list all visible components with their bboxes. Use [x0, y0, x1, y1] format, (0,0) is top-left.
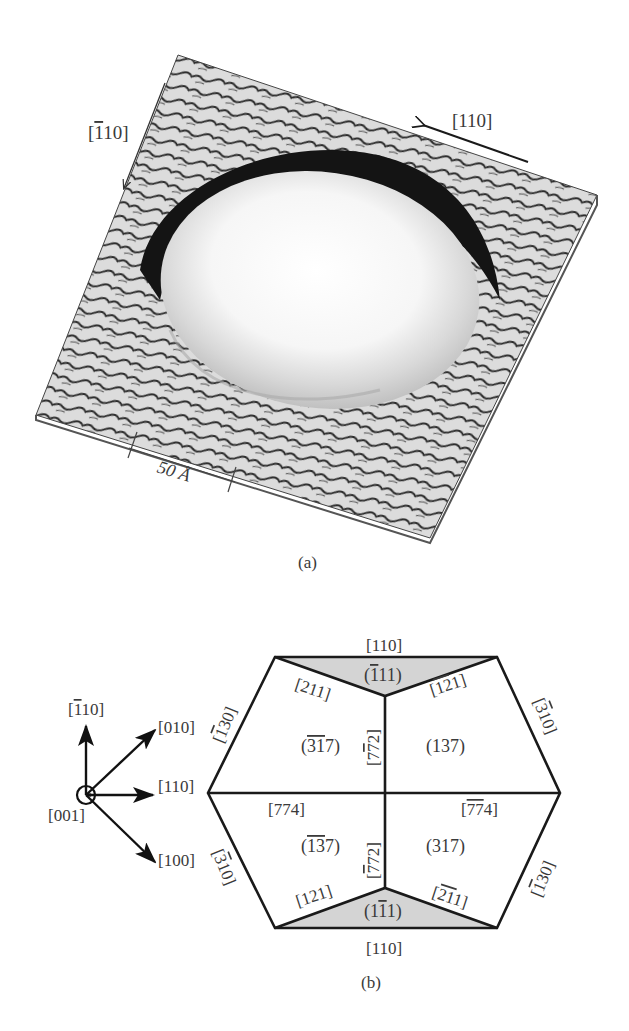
axis-label-001: [001]: [48, 806, 85, 825]
edge-label-774: [774]: [268, 800, 305, 819]
edge-label-vertical-upper: [772]: [364, 729, 383, 766]
caption-b: (b): [361, 973, 381, 992]
axes-legend: [77, 726, 155, 862]
facet-label-upper-left: (317): [301, 736, 340, 757]
facet-diagram: [208, 657, 560, 928]
edge-label-lower-right: [130]: [527, 858, 558, 899]
facet-label-bottom: (111): [364, 901, 402, 922]
figure: [110] [110] 50 Å (a) [110] [010] [110] […: [0, 0, 629, 1031]
edge-label-774-bar: [774]: [461, 800, 498, 819]
edge-label-top: [110]: [366, 636, 402, 655]
facet-label-upper-right: (137): [426, 736, 465, 757]
edge-label-121: [121]: [293, 881, 334, 910]
edge-label-211: [211]: [293, 675, 333, 704]
edge-label-lower-left: [310]: [208, 846, 239, 887]
axis-label-110: [110]: [158, 777, 194, 796]
direction-label-left: [110]: [88, 122, 128, 143]
axis-label-up: [110]: [68, 700, 104, 719]
direction-label-right: [110]: [452, 110, 492, 131]
facet-label-lower-left: (137): [301, 836, 340, 857]
caption-a: (a): [298, 553, 317, 572]
edge-label-upper-right: [310]: [529, 695, 560, 736]
facet-label-top: (111): [364, 665, 402, 686]
facet-label-lower-right: (317): [426, 836, 465, 857]
edge-label-vertical-lower: [772]: [364, 842, 383, 879]
axis-label-010: [010]: [158, 718, 195, 737]
axis-label-100: [100]: [158, 851, 195, 870]
edge-label-bottom: [110]: [366, 939, 402, 958]
